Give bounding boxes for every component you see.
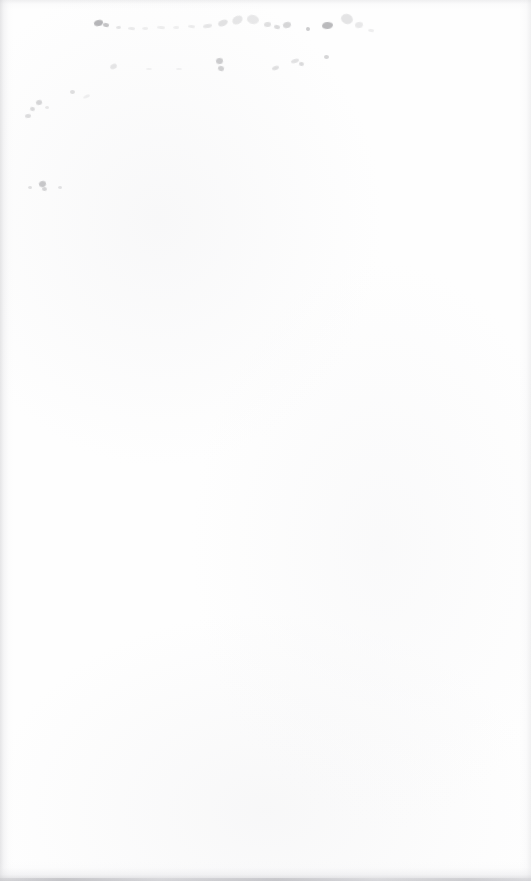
scanned-document-page [0,0,531,881]
paper-background [0,0,531,881]
